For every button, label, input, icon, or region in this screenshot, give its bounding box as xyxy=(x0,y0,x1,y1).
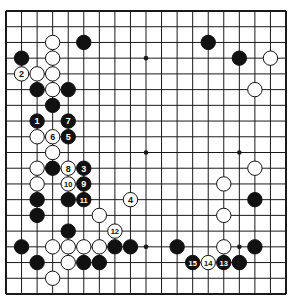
white-stone xyxy=(45,51,59,65)
black-stone xyxy=(61,192,75,206)
white-stone-icon xyxy=(30,67,44,81)
star-point xyxy=(237,245,242,250)
move-number-label: 6 xyxy=(50,132,55,142)
white-stone-icon xyxy=(217,177,231,191)
black-stone-icon xyxy=(30,255,44,269)
black-stone xyxy=(14,240,28,254)
black-stone xyxy=(61,82,75,96)
black-stone-icon xyxy=(14,240,28,254)
black-stone-move-7: 7 xyxy=(61,114,75,128)
black-stone-icon xyxy=(61,224,75,238)
black-stone xyxy=(92,255,106,269)
black-stone-move-15: 15 xyxy=(185,255,199,269)
black-stone-icon xyxy=(232,255,246,269)
move-number-label: 12 xyxy=(111,227,119,236)
white-stone xyxy=(45,35,59,49)
white-stone-icon xyxy=(61,240,75,254)
black-stone xyxy=(108,240,122,254)
black-stone-icon xyxy=(14,51,28,65)
white-stone-icon xyxy=(92,240,106,254)
white-stone-icon xyxy=(45,51,59,65)
white-stone-move-4: 4 xyxy=(123,192,137,206)
move-number-label: 2 xyxy=(19,69,24,79)
white-stone xyxy=(45,271,59,285)
white-stone xyxy=(217,240,231,254)
star-point xyxy=(237,150,242,155)
white-stone xyxy=(30,161,44,175)
move-number-label: 15 xyxy=(188,259,196,268)
white-stone xyxy=(92,208,106,222)
black-stone-icon xyxy=(77,35,91,49)
black-stone-icon xyxy=(232,51,246,65)
black-stone-icon xyxy=(92,255,106,269)
black-stone-icon xyxy=(248,240,262,254)
white-stone xyxy=(45,67,59,81)
black-stone-move-5: 5 xyxy=(61,130,75,144)
black-stone-icon xyxy=(61,82,75,96)
black-stone xyxy=(77,255,91,269)
black-stone xyxy=(30,192,44,206)
go-board: 217658310911412151413 xyxy=(0,0,292,306)
white-stone-icon xyxy=(45,240,59,254)
black-stone xyxy=(30,208,44,222)
white-stone-icon xyxy=(77,240,91,254)
move-number-label: 1 xyxy=(35,116,40,126)
black-stone-icon xyxy=(45,98,59,112)
white-stone xyxy=(30,67,44,81)
white-stone xyxy=(30,177,44,191)
white-stone-move-14: 14 xyxy=(201,255,215,269)
white-stone xyxy=(217,177,231,191)
black-stone xyxy=(201,35,215,49)
black-stone xyxy=(45,98,59,112)
black-stone xyxy=(45,161,59,175)
star-point xyxy=(144,56,149,61)
white-stone xyxy=(61,255,75,269)
white-stone xyxy=(248,161,262,175)
black-stone-icon xyxy=(30,208,44,222)
white-stone-icon xyxy=(30,177,44,191)
black-stone-icon xyxy=(123,240,137,254)
black-stone-move-3: 3 xyxy=(77,161,91,175)
white-stone xyxy=(217,208,231,222)
move-number-label: 3 xyxy=(81,164,86,174)
white-stone-move-10: 10 xyxy=(61,177,75,191)
black-stone-icon xyxy=(30,82,44,96)
white-stone-icon xyxy=(30,130,44,144)
black-stone-move-9: 9 xyxy=(77,177,91,191)
white-stone-icon xyxy=(45,145,59,159)
white-stone xyxy=(45,240,59,254)
move-number-label: 9 xyxy=(81,179,86,189)
white-stone xyxy=(45,145,59,159)
white-stone-icon xyxy=(61,255,75,269)
black-stone xyxy=(61,224,75,238)
move-number-label: 13 xyxy=(220,259,228,268)
black-stone xyxy=(170,240,184,254)
move-number-label: 11 xyxy=(80,196,88,205)
black-stone-move-13: 13 xyxy=(217,255,231,269)
black-stone xyxy=(123,240,137,254)
move-number-label: 8 xyxy=(66,164,71,174)
white-stone xyxy=(77,240,91,254)
white-stone-move-12: 12 xyxy=(108,224,122,238)
move-number-label: 10 xyxy=(64,180,72,189)
black-stone xyxy=(30,82,44,96)
white-stone-move-8: 8 xyxy=(61,161,75,175)
white-stone-icon xyxy=(45,82,59,96)
black-stone xyxy=(77,35,91,49)
white-stone-icon xyxy=(248,161,262,175)
white-stone xyxy=(92,240,106,254)
white-stone xyxy=(248,82,262,96)
star-point xyxy=(144,245,149,250)
black-stone xyxy=(232,255,246,269)
black-stone xyxy=(30,255,44,269)
black-stone-icon xyxy=(61,192,75,206)
white-stone-icon xyxy=(263,51,277,65)
black-stone xyxy=(248,192,262,206)
black-stone-icon xyxy=(201,35,215,49)
white-stone-icon xyxy=(30,161,44,175)
white-stone-move-6: 6 xyxy=(45,130,59,144)
white-stone xyxy=(30,130,44,144)
move-number-label: 5 xyxy=(66,132,71,142)
white-stone-icon xyxy=(45,35,59,49)
black-stone-icon xyxy=(248,192,262,206)
